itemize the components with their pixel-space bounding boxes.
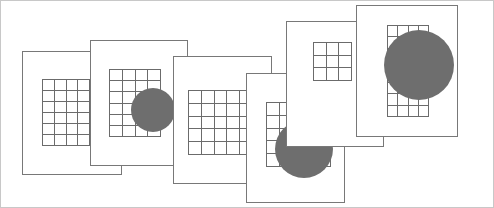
grid-cell xyxy=(202,117,215,130)
grid-cell xyxy=(215,142,228,155)
grid-cell xyxy=(314,68,327,81)
grid-cell xyxy=(78,91,90,102)
grid-cell xyxy=(67,80,79,91)
grid-cell xyxy=(227,129,240,142)
card-6[interactable] xyxy=(356,5,458,137)
grid-cell xyxy=(55,113,67,124)
grid-cell xyxy=(327,68,340,81)
grid-cell xyxy=(148,70,161,81)
grid-cell xyxy=(388,26,398,37)
grid-cell xyxy=(43,124,55,135)
grid-cell xyxy=(55,102,67,113)
grid-cell xyxy=(215,117,228,130)
grid-cell xyxy=(55,91,67,102)
grid-cell xyxy=(339,68,352,81)
grid-cell xyxy=(398,106,408,117)
grid-cell xyxy=(327,43,340,56)
disc-6 xyxy=(384,30,454,100)
grid-cell xyxy=(215,91,228,104)
grid-cell xyxy=(419,106,429,117)
grid-cell xyxy=(67,91,79,102)
grid-cell xyxy=(202,91,215,104)
grid-cell xyxy=(123,126,136,137)
disc-2 xyxy=(131,88,175,132)
grid-cell xyxy=(110,104,123,115)
grid-cell xyxy=(55,124,67,135)
grid-cell xyxy=(67,135,79,146)
grid-cell xyxy=(43,113,55,124)
grid-cell xyxy=(110,81,123,92)
grid-cell xyxy=(215,129,228,142)
grid-cell xyxy=(136,70,149,81)
grid-cell xyxy=(43,102,55,113)
grid-cell xyxy=(339,56,352,69)
grid-cell xyxy=(78,102,90,113)
grid-cell xyxy=(78,80,90,91)
grid-cell xyxy=(189,129,202,142)
grid-cell xyxy=(110,92,123,103)
grid-cell xyxy=(110,126,123,137)
grid-cell xyxy=(123,70,136,81)
grid-cell xyxy=(55,135,67,146)
grid-3 xyxy=(188,90,253,155)
grid-cell xyxy=(189,104,202,117)
grid-cell xyxy=(78,135,90,146)
figure-canvas xyxy=(0,0,494,208)
grid-cell xyxy=(78,124,90,135)
grid-1 xyxy=(42,79,90,146)
grid-cell xyxy=(388,106,398,117)
grid-cell xyxy=(189,91,202,104)
grid-cell xyxy=(202,142,215,155)
grid-cell xyxy=(110,70,123,81)
grid-cell xyxy=(409,106,419,117)
grid-cell xyxy=(67,113,79,124)
grid-cell xyxy=(227,104,240,117)
grid-cell xyxy=(267,116,280,129)
grid-cell xyxy=(227,91,240,104)
grid-cell xyxy=(123,81,136,92)
grid-cell xyxy=(43,91,55,102)
grid-cell xyxy=(110,115,123,126)
grid-cell xyxy=(189,117,202,130)
grid-cell xyxy=(339,43,352,56)
grid-cell xyxy=(227,117,240,130)
grid-cell xyxy=(67,124,79,135)
grid-cell xyxy=(327,56,340,69)
grid-cell xyxy=(215,104,228,117)
grid-cell xyxy=(55,80,67,91)
grid-cell xyxy=(314,43,327,56)
grid-cell xyxy=(43,135,55,146)
grid-cell xyxy=(202,129,215,142)
grid-cell xyxy=(67,102,79,113)
grid-5 xyxy=(313,42,352,81)
grid-cell xyxy=(78,113,90,124)
grid-cell xyxy=(314,56,327,69)
grid-cell xyxy=(227,142,240,155)
grid-cell xyxy=(202,104,215,117)
grid-cell xyxy=(189,142,202,155)
grid-cell xyxy=(43,80,55,91)
grid-cell xyxy=(267,103,280,116)
grid-cell xyxy=(388,94,398,105)
